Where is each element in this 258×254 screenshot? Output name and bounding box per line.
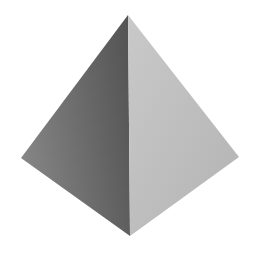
pyramid-illustration: [0, 0, 258, 254]
